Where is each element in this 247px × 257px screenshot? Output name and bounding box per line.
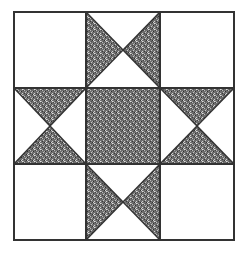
quilt-block-diagram xyxy=(0,0,247,257)
cell-center-shaded xyxy=(86,88,160,164)
